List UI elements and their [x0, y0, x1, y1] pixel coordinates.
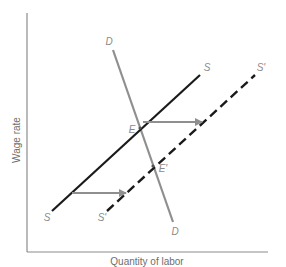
- label-s-top: S: [204, 62, 211, 73]
- labor-market-diagram: Wage rate Quantity of labor D D S S S' S…: [0, 0, 286, 267]
- label-s-bottom: S: [44, 212, 51, 223]
- supply-curve-s: [52, 75, 200, 211]
- y-axis-title: Wage rate: [11, 117, 22, 163]
- x-axis-title: Quantity of labor: [110, 256, 184, 267]
- label-d-bottom: D: [171, 226, 178, 237]
- label-s-prime-bottom: S': [98, 212, 108, 223]
- label-e: E: [129, 124, 136, 135]
- label-s-prime-top: S': [257, 62, 267, 73]
- equilibrium-point-e-prime: [151, 164, 154, 167]
- label-e-prime: E': [159, 163, 169, 174]
- equilibrium-point-e: [138, 126, 141, 129]
- label-d-top: D: [105, 36, 112, 47]
